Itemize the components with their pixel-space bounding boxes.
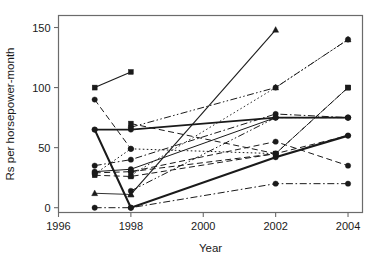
data-point-square [92,85,97,90]
series-line [131,118,348,191]
x-tick-label: 2002 [263,220,287,232]
data-point-circle [92,97,97,102]
series-line [131,136,348,172]
data-point-circle [345,115,350,120]
data-point-circle [345,133,350,138]
series-line [131,30,276,195]
x-tick-label: 2004 [336,220,360,232]
data-point-circle [273,151,278,156]
data-point-square [128,121,133,126]
data-point-circle [128,146,133,151]
series-line [95,88,348,177]
data-point-circle [92,163,97,168]
series-line [131,40,348,176]
data-point-circle [128,188,133,193]
series-line [131,40,348,128]
data-point-circle [273,181,278,186]
data-point-circle [92,205,97,210]
y-tick-label: 0 [44,202,50,214]
data-point-triangle [92,190,98,196]
plot-frame [59,16,363,213]
data-point-triangle [273,27,279,33]
data-point-circle [128,169,133,174]
y-axis-title: Rs per horsepower-month [4,48,16,181]
y-tick-label: 150 [32,22,50,34]
y-tick-label: 50 [38,142,50,154]
x-tick-label: 1998 [119,220,143,232]
chart-plot-area: 19961998200020022004050100150YearRs per … [0,0,376,265]
x-tick-label: 1996 [46,220,70,232]
chart-figure: 19961998200020022004050100150YearRs per … [0,0,376,265]
data-point-square [128,69,133,74]
series-line [95,193,131,194]
data-point-circle [345,181,350,186]
x-axis-title: Year [199,242,222,254]
x-tick-label: 2000 [191,220,215,232]
data-point-square [346,85,351,90]
data-point-circle [92,170,97,175]
series-line [95,72,131,88]
data-point-circle [128,157,133,162]
data-point-circle [92,127,97,132]
data-point-circle [273,115,278,120]
data-point-square [128,174,133,179]
data-point-circle [345,163,350,168]
data-point-circle [273,139,278,144]
y-tick-label: 100 [32,82,50,94]
data-point-circle [128,205,133,210]
